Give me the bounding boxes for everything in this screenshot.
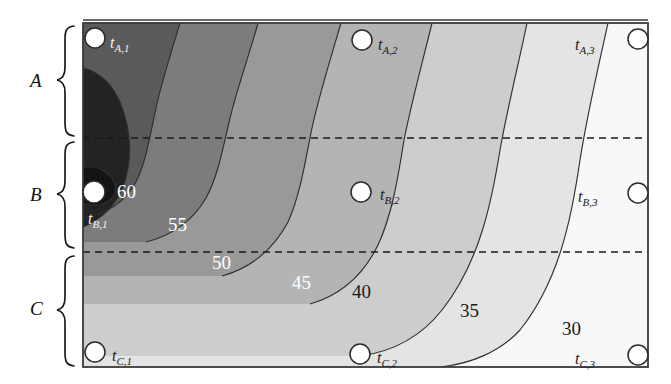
node-label-tB3-sub: B,3 xyxy=(582,196,597,208)
node-tC2[interactable] xyxy=(350,344,370,364)
node-label-tB2: tB,2 xyxy=(380,186,399,206)
node-label-tB2-sub: B,2 xyxy=(384,194,399,206)
node-label-tB3: tB,3 xyxy=(578,188,597,208)
node-tA2[interactable] xyxy=(352,30,372,50)
brace-label-c: C xyxy=(30,298,43,320)
node-tA1[interactable] xyxy=(85,28,105,48)
brace-path-c xyxy=(57,256,74,366)
node-label-tC3: tC,3 xyxy=(575,350,595,370)
node-label-tC1-sub: C,1 xyxy=(116,355,132,367)
contour-figure: A B C tA,1 tA,2 tA,3 tB,1 tB,2 tB,3 tC,1… xyxy=(0,0,671,384)
brace-label-b: B xyxy=(30,184,42,206)
brace-path-a xyxy=(57,26,74,136)
contour-label-50: 50 xyxy=(212,252,231,274)
node-label-tA3: tA,3 xyxy=(575,36,594,56)
node-tC3[interactable] xyxy=(628,345,648,365)
node-label-tA3-sub: A,3 xyxy=(579,44,594,56)
contour-label-60: 60 xyxy=(117,181,136,203)
brace-path-b xyxy=(57,142,74,248)
node-label-tA2-sub: A,2 xyxy=(382,44,397,56)
brace-label-a: A xyxy=(30,70,42,92)
node-tB3[interactable] xyxy=(628,183,648,203)
contour-label-30: 30 xyxy=(562,318,581,340)
contour-label-35: 35 xyxy=(460,300,479,322)
node-label-tC2: tC,2 xyxy=(377,349,397,369)
node-label-tC2-sub: C,2 xyxy=(381,357,397,369)
contour-label-45: 45 xyxy=(292,272,311,294)
node-label-tC3-sub: C,3 xyxy=(579,358,595,370)
contour-label-55: 55 xyxy=(168,214,187,236)
node-tB2[interactable] xyxy=(351,182,371,202)
contour-label-40: 40 xyxy=(352,281,371,303)
node-tC1[interactable] xyxy=(85,342,105,362)
node-label-tB1-sub: B,1 xyxy=(92,218,107,230)
node-label-tB1: tB,1 xyxy=(88,210,107,230)
node-label-tA2: tA,2 xyxy=(378,36,397,56)
node-label-tA1: tA,1 xyxy=(110,34,129,54)
node-tA3[interactable] xyxy=(628,29,648,49)
node-label-tA1-sub: A,1 xyxy=(114,42,129,54)
node-tB1[interactable] xyxy=(83,181,105,203)
node-label-tC1: tC,1 xyxy=(112,347,132,367)
